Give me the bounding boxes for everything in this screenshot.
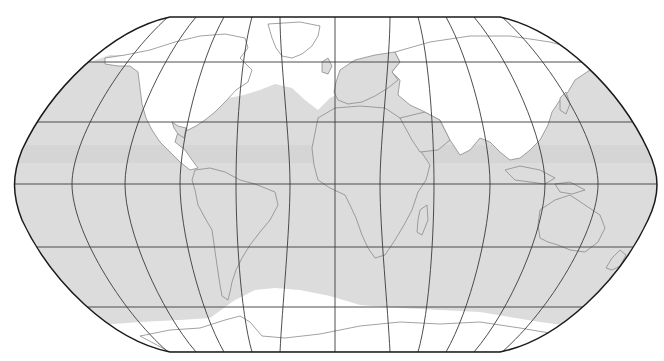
map-canvas xyxy=(0,0,664,361)
world-map: Robinson World map showing sea ice exten… xyxy=(0,0,664,361)
ocean-layer xyxy=(0,0,664,361)
